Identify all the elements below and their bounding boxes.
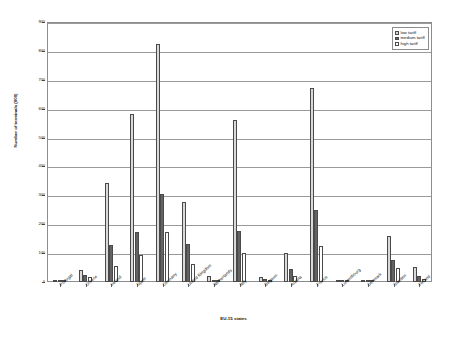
- bar-group: [47, 22, 73, 282]
- bar-group: [252, 22, 278, 282]
- y-axis-tick-label: 300: [25, 193, 45, 197]
- bar-group: [355, 22, 381, 282]
- y-axis-tick-label: 900: [25, 20, 45, 24]
- bar-group: [124, 22, 150, 282]
- bar: [413, 267, 417, 282]
- bar: [135, 232, 139, 282]
- bar: [361, 280, 365, 282]
- y-axis-tick-labels: 0100200300400500600700800900: [24, 22, 45, 282]
- x-axis-title: EU-15 states: [0, 316, 467, 321]
- bar: [310, 88, 314, 282]
- bars-layer: [47, 22, 432, 282]
- legend-label: high tariff: [401, 42, 418, 46]
- bar: [314, 210, 318, 282]
- bar: [336, 280, 340, 282]
- bar-chart: Number of terminals (000) 01002003004005…: [0, 0, 467, 339]
- bar: [79, 270, 83, 282]
- bar: [284, 253, 288, 282]
- bar-group: [150, 22, 176, 282]
- y-axis-tick-label: 100: [25, 251, 45, 255]
- y-axis-tick-label: 800: [25, 49, 45, 53]
- bar: [233, 120, 237, 282]
- y-axis-tick-label: 200: [25, 222, 45, 226]
- bar: [53, 280, 57, 282]
- bar: [391, 260, 395, 282]
- bar: [259, 277, 263, 282]
- bar: [109, 245, 113, 282]
- bar: [207, 276, 211, 282]
- bar: [165, 232, 169, 282]
- bar-group: [329, 22, 355, 282]
- legend-label: medium tariff: [401, 36, 425, 40]
- legend-item: high tariff: [395, 42, 425, 46]
- legend-swatch-low: [395, 31, 399, 35]
- bar-group: [201, 22, 227, 282]
- bar-group: [227, 22, 253, 282]
- legend-swatch-high: [395, 42, 399, 46]
- chart-legend: low tariffmedium tariffhigh tariff: [392, 27, 429, 50]
- y-axis-title: Number of terminals (000): [13, 73, 18, 169]
- y-axis-tick-label: 600: [25, 107, 45, 111]
- bar: [186, 244, 190, 282]
- bar: [387, 236, 391, 282]
- legend-item: medium tariff: [395, 36, 425, 40]
- bar: [182, 202, 186, 282]
- y-axis-tick-label: 0: [25, 280, 45, 284]
- y-axis-tick-label: 700: [25, 78, 45, 82]
- y-axis-tick-label: 500: [25, 136, 45, 140]
- bar: [130, 114, 134, 282]
- bar-group: [381, 22, 407, 282]
- bar: [160, 194, 164, 282]
- bar: [156, 44, 160, 282]
- bar-group: [98, 22, 124, 282]
- bar-group: [278, 22, 304, 282]
- bar: [237, 231, 241, 282]
- bar-group: [175, 22, 201, 282]
- y-axis-tick-label: 400: [25, 164, 45, 168]
- bar-group: [406, 22, 432, 282]
- bar: [105, 183, 109, 282]
- bar-group: [304, 22, 330, 282]
- bar-group: [73, 22, 99, 282]
- legend-swatch-medium: [395, 37, 399, 41]
